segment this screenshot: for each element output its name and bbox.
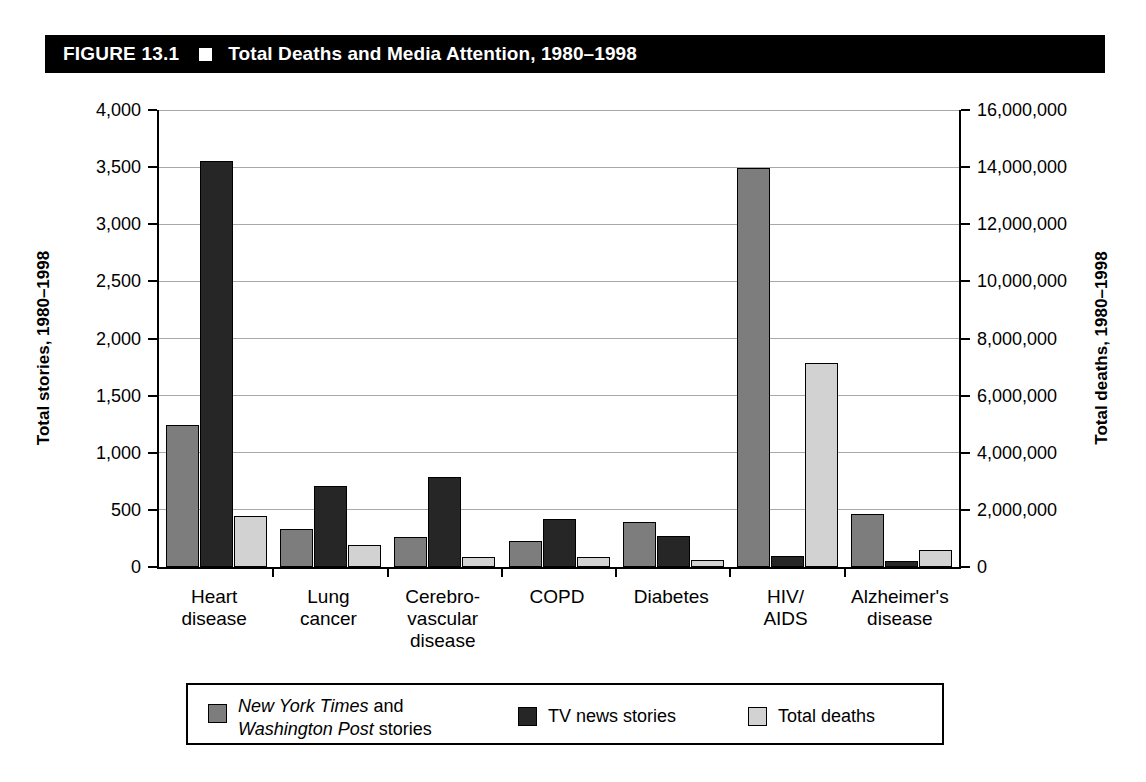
right-axis-tick: [961, 109, 970, 111]
left-axis-tick-label: 0: [131, 558, 141, 576]
right-axis-tick: [961, 509, 970, 511]
category-tick: [501, 567, 503, 577]
left-axis-tick: [148, 338, 157, 340]
right-axis-tick: [961, 566, 970, 568]
category-tick: [844, 567, 846, 577]
left-axis-tick: [148, 509, 157, 511]
right-axis-tick: [961, 338, 970, 340]
left-axis-tick-label: 1,500: [96, 387, 141, 405]
left-axis-tick-label: 3,000: [96, 215, 141, 233]
bar-group: [623, 110, 724, 567]
plot-area: 005002,000,0001,0004,000,0001,5006,000,0…: [157, 110, 961, 569]
figure-title-banner: FIGURE 13.1 Total Deaths and Media Atten…: [45, 35, 1105, 73]
bar: [509, 541, 542, 567]
bar: [200, 161, 233, 567]
bar: [691, 560, 724, 567]
right-axis-tick: [961, 395, 970, 397]
left-axis-tick: [148, 109, 157, 111]
bar: [577, 557, 610, 567]
right-axis-tick-label: 14,000,000: [977, 158, 1067, 176]
right-axis-tick-label: 8,000,000: [977, 330, 1057, 348]
legend-swatch-nyt-wp: [208, 704, 227, 723]
bar: [348, 545, 381, 567]
legend-label-tv-news: TV news stories: [548, 705, 676, 728]
bar: [919, 550, 952, 567]
right-axis-tick-label: 2,000,000: [977, 501, 1057, 519]
category-tick: [729, 567, 731, 577]
figure-container: FIGURE 13.1 Total Deaths and Media Atten…: [0, 0, 1146, 782]
bar: [805, 363, 838, 568]
bar: [851, 514, 884, 567]
right-axis-tick-label: 6,000,000: [977, 387, 1057, 405]
right-axis-tick-label: 12,000,000: [977, 215, 1067, 233]
legend-label-total-deaths: Total deaths: [778, 705, 875, 728]
bar-group: [394, 110, 495, 567]
category-label: Alzheimer's disease: [843, 586, 957, 630]
right-axis-title: Total deaths, 1980–1998: [1092, 198, 1112, 498]
bar: [462, 557, 495, 567]
legend-item-nyt-wp: New York Times andWashington Post storie…: [208, 695, 432, 742]
legend-label-nyt-wp: New York Times andWashington Post storie…: [238, 695, 432, 742]
right-axis-tick-label: 4,000,000: [977, 444, 1057, 462]
bar: [314, 486, 347, 567]
left-axis-tick: [148, 566, 157, 568]
bar: [737, 168, 770, 567]
left-axis-tick: [148, 395, 157, 397]
category-label: Lung cancer: [271, 586, 385, 630]
left-axis-tick: [148, 166, 157, 168]
category-label: Cerebro- vascular disease: [386, 586, 500, 653]
bar: [771, 556, 804, 567]
left-axis-tick-label: 2,000: [96, 330, 141, 348]
figure-number-label: FIGURE 13.1: [63, 43, 179, 65]
bar: [428, 477, 461, 567]
right-axis-tick: [961, 280, 970, 282]
category-tick: [387, 567, 389, 577]
figure-title-text: Total Deaths and Media Attention, 1980–1…: [228, 43, 637, 65]
right-axis-tick-label: 16,000,000: [977, 101, 1067, 119]
bar-group: [851, 110, 952, 567]
white-square-icon: [199, 48, 212, 61]
bar-group: [509, 110, 610, 567]
left-axis-tick: [148, 452, 157, 454]
bar: [280, 529, 313, 567]
right-axis-tick: [961, 223, 970, 225]
bar: [885, 561, 918, 567]
left-axis-tick-label: 500: [111, 501, 141, 519]
left-axis-tick: [148, 223, 157, 225]
legend-item-tv-news: TV news stories: [518, 705, 676, 728]
category-label: Heart disease: [157, 586, 271, 630]
bar: [543, 519, 576, 567]
right-axis-tick-label: 0: [977, 558, 987, 576]
category-tick: [272, 567, 274, 577]
legend-swatch-tv-news: [518, 707, 537, 726]
bar: [234, 516, 267, 567]
bar-group: [737, 110, 838, 567]
category-label: HIV/ AIDS: [728, 586, 842, 630]
bar: [657, 536, 690, 567]
bar-group: [166, 110, 267, 567]
bar: [166, 425, 199, 567]
legend-swatch-total-deaths: [748, 707, 767, 726]
left-axis-tick-label: 1,000: [96, 444, 141, 462]
right-axis-tick: [961, 452, 970, 454]
bar-group: [280, 110, 381, 567]
category-label: Diabetes: [614, 586, 728, 608]
right-axis-tick-label: 10,000,000: [977, 272, 1067, 290]
category-tick: [615, 567, 617, 577]
left-axis-tick-label: 3,500: [96, 158, 141, 176]
left-axis-tick-label: 4,000: [96, 101, 141, 119]
left-axis-tick: [148, 280, 157, 282]
bar: [623, 522, 656, 567]
chart-legend: New York Times andWashington Post storie…: [186, 683, 944, 745]
bar: [394, 537, 427, 567]
right-axis-tick: [961, 166, 970, 168]
category-label: COPD: [500, 586, 614, 608]
legend-item-total-deaths: Total deaths: [748, 705, 875, 728]
left-axis-title: Total stories, 1980–1998: [34, 198, 54, 498]
left-axis-tick-label: 2,500: [96, 272, 141, 290]
